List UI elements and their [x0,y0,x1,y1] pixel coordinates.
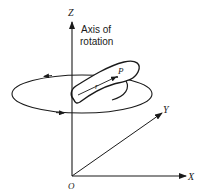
axis-caption-line2: rotation [80,36,113,47]
rigid-body: r P [71,61,139,103]
y-axis-label: Y [163,104,170,115]
rotation-direction-arrow-top-icon [44,76,52,77]
origin-label: O [68,181,75,191]
z-axis-label: Z [68,7,74,18]
rotation-diagram: r P Z Axis of rotation X Y O [0,0,199,193]
axis-caption-line1: Axis of [81,24,111,35]
point-p-label: P [117,66,124,76]
diagram-canvas: r P Z Axis of rotation X Y O [0,0,199,193]
x-axis-label: X [187,171,195,182]
point-p-dot [116,76,118,78]
y-axis-arrow-icon [72,113,162,176]
